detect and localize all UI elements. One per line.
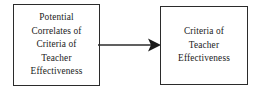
node-potential-correlates[interactable]: Potential Correlates of Criteria of Teac…	[13, 4, 100, 86]
node-potential-correlates-label: Potential Correlates of Criteria of Teac…	[28, 11, 86, 79]
node-criteria-teacher-effectiveness-label: Criteria of Teacher Effectiveness	[175, 25, 233, 66]
node-criteria-teacher-effectiveness[interactable]: Criteria of Teacher Effectiveness	[160, 6, 248, 85]
flow-diagram: Potential Correlates of Criteria of Teac…	[0, 0, 260, 91]
arrow-correlates-to-criteria	[98, 33, 162, 57]
